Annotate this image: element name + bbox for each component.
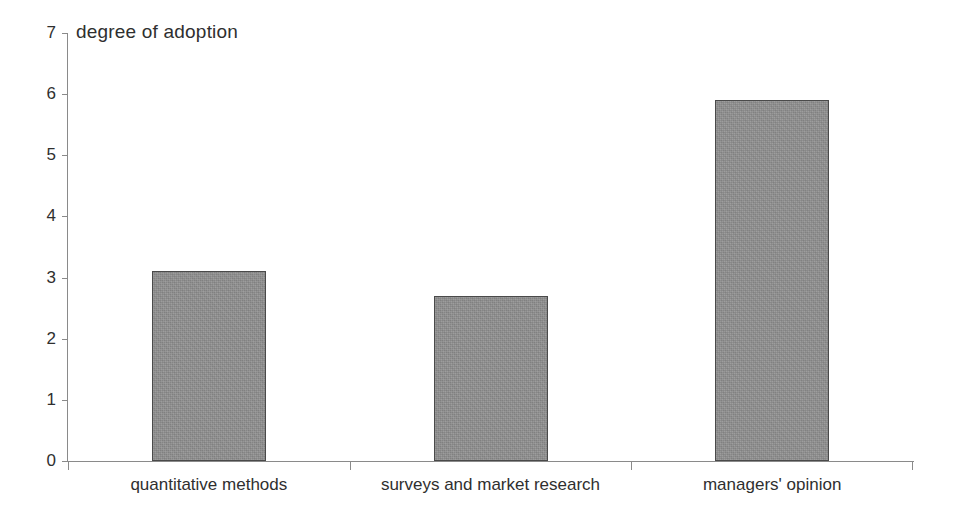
chart-title: degree of adoption — [76, 21, 238, 43]
y-axis-tick — [62, 400, 68, 401]
x-axis-category-label: quantitative methods — [68, 476, 350, 495]
y-axis-tick-label: 7 — [38, 24, 56, 41]
x-axis-tick — [912, 462, 913, 470]
bar — [715, 100, 829, 461]
y-axis-tick — [62, 94, 68, 95]
x-axis-category-label: managers' opinion — [631, 476, 913, 495]
x-axis-tick — [631, 462, 632, 470]
bar — [434, 296, 548, 461]
y-axis-tick-label: 1 — [38, 391, 56, 408]
y-axis-tick-label: 4 — [38, 207, 56, 224]
x-axis-line — [67, 461, 914, 462]
y-axis-tick — [62, 216, 68, 217]
y-axis-tick — [62, 155, 68, 156]
x-axis-category-label: surveys and market research — [350, 476, 632, 495]
x-axis-tick — [68, 462, 69, 470]
y-axis-tick — [62, 278, 68, 279]
y-axis-tick — [62, 33, 68, 34]
bar — [152, 271, 266, 461]
bar-chart: degree of adoption 01234567 quantitative… — [0, 0, 960, 515]
y-axis-tick-label: 6 — [38, 85, 56, 102]
y-axis-tick-label: 0 — [38, 452, 56, 469]
x-axis-tick — [350, 462, 351, 470]
y-axis-tick-label: 5 — [38, 146, 56, 163]
y-axis-tick-label: 2 — [38, 330, 56, 347]
y-axis-line — [67, 33, 68, 462]
y-axis-tick — [62, 339, 68, 340]
y-axis-tick-label: 3 — [38, 269, 56, 286]
